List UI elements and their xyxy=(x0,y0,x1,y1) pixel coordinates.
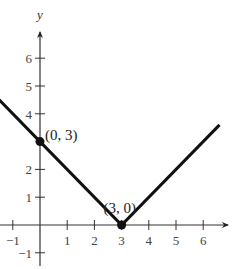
graph-figure: −1123456−112456 (0, 3)(3, 0) y xyxy=(0,0,233,269)
labeled-points: (0, 3)(3, 0) xyxy=(36,127,137,230)
y-tick-label: 1 xyxy=(26,190,33,205)
absolute-value-graph: −1123456−112456 (0, 3)(3, 0) y xyxy=(0,0,233,269)
point-label: (0, 3) xyxy=(45,127,78,144)
y-tick-label: 6 xyxy=(26,51,33,66)
x-tick-label: 3 xyxy=(118,233,125,248)
x-tick-label: 6 xyxy=(200,233,207,248)
x-tick-label: 5 xyxy=(173,233,180,248)
point-marker xyxy=(36,137,45,146)
y-tick-label: 5 xyxy=(26,79,33,94)
y-tick-label: −1 xyxy=(18,246,32,261)
point-marker xyxy=(117,221,126,230)
y-tick-label: 2 xyxy=(26,162,33,177)
point-label: (3, 0) xyxy=(104,200,137,217)
axes xyxy=(0,32,228,266)
x-tick-label: 4 xyxy=(146,233,153,248)
y-axis-label: y xyxy=(35,7,43,22)
ticks: −1123456−112456 xyxy=(6,51,207,261)
x-tick-label: 1 xyxy=(64,233,71,248)
y-tick-label: 4 xyxy=(26,107,33,122)
x-tick-label: 2 xyxy=(91,233,98,248)
